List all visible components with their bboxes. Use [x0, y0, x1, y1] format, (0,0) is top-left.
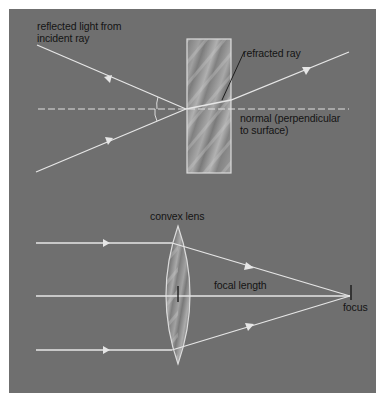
reflected-label-line2: incident ray	[37, 32, 90, 44]
converging-ray-bottom	[172, 296, 350, 350]
normal-label-line2: to surface)	[240, 124, 289, 136]
optics-diagram	[0, 0, 387, 399]
glass-block	[187, 39, 231, 173]
reflected-arrow-icon	[104, 75, 112, 83]
arrow-top-icon	[103, 239, 110, 247]
angle-arc-reflection	[157, 97, 158, 109]
normal-label-line1: normal (perpendicular	[240, 112, 340, 124]
angle-arc-incidence	[155, 109, 157, 121]
converging-arrow-top-icon	[244, 262, 254, 270]
convex-lens-label: convex lens	[150, 210, 204, 222]
incident-arrow-icon	[105, 137, 113, 145]
focus-label: focus	[343, 301, 368, 313]
refracted-ray-label: refracted ray	[243, 47, 301, 59]
reflected-label-line1: reflected light from	[37, 20, 121, 32]
focal-length-label: focal length	[214, 279, 267, 291]
arrow-bottom-icon	[103, 346, 110, 354]
